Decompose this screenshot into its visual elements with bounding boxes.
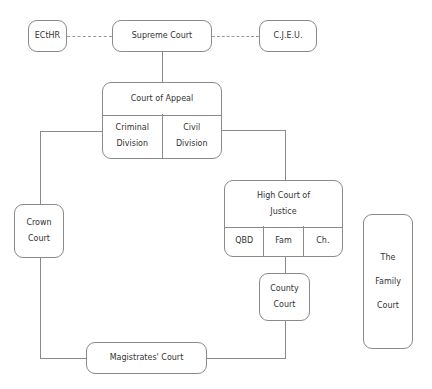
criminal-division: Criminal Division [103,114,162,158]
high-court-ch: Ch. [303,226,342,256]
node-crown-court: Crown Court [14,204,64,258]
fam-label: Fam [275,233,292,249]
node-supreme-court: Supreme Court [112,20,212,52]
edge-appeal-crown-h [40,131,102,132]
civil-division-line1: Civil [176,120,208,136]
criminal-division-line1: Criminal [116,120,149,136]
edge-county-magistrates-v [285,320,286,358]
civil-division-line2: Division [176,136,208,152]
edge-ecthr-supreme [67,36,112,37]
high-court-qbd: QBD [225,226,263,256]
node-magistrates-court: Magistrates' Court [86,342,207,374]
edge-supreme-cjeu [212,36,259,37]
node-cjeu: C.J.E.U. [259,20,317,52]
edge-appeal-high-v [285,130,286,180]
county-court-line1: County [270,281,299,297]
node-family-court: The Family Court [363,214,413,349]
node-court-of-appeal: Court of Appeal Criminal Division Civil … [102,82,222,159]
high-court-line1: High Court of [257,188,310,204]
node-supreme-court-label: Supreme Court [132,28,193,44]
edge-appeal-high-h [222,130,286,131]
edge-appeal-crown-v [40,131,41,204]
edge-county-magistrates-h [207,358,286,359]
civil-division: Civil Division [162,114,222,158]
family-court-line2: Family [375,270,401,294]
edge-high-county [285,257,286,273]
node-ecthr-label: ECtHR [35,28,60,44]
node-high-court: High Court of Justice QBD Fam Ch. [224,180,343,257]
qbd-label: QBD [235,233,253,249]
family-court-line1: The [375,246,401,270]
crown-court-line1: Crown [26,215,51,231]
edge-crown-magistrates-v [40,258,41,358]
criminal-division-line2: Division [116,136,149,152]
court-of-appeal-label: Court of Appeal [131,91,193,107]
court-of-appeal-header: Court of Appeal [103,83,221,116]
high-court-header: High Court of Justice [225,181,342,228]
family-court-line3: Court [375,294,401,318]
node-ecthr: ECtHR [28,20,67,52]
high-court-fam: Fam [263,226,302,256]
node-county-court: County Court [259,273,310,321]
magistrates-court-label: Magistrates' Court [110,350,184,366]
high-court-line2: Justice [257,204,310,220]
county-court-line2: Court [270,297,299,313]
ch-label: Ch. [316,233,329,249]
crown-court-line2: Court [26,231,51,247]
node-cjeu-label: C.J.E.U. [273,28,302,44]
edge-supreme-appeal [162,51,163,82]
edge-crown-magistrates-h [40,358,86,359]
